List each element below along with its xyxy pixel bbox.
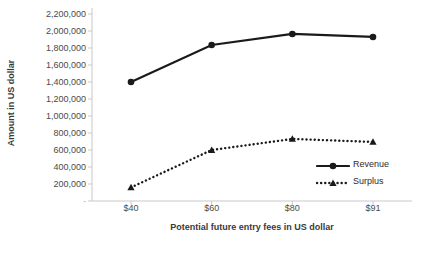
legend-symbol-graphic (316, 177, 350, 189)
data-point-circle-marker (208, 42, 215, 49)
y-axis-tick-labels: 2,200,0002,000,0001,800,0001,600,0001,40… (22, 0, 90, 210)
x-axis-tick-label: $80 (285, 203, 300, 213)
y-axis-title: Amount in US dollar (0, 0, 22, 205)
y-axis-tick-label: 1,400,000 (46, 78, 86, 87)
legend-symbol-triangle-icon (316, 175, 350, 187)
chart-legend: RevenueSurplus (316, 156, 416, 190)
y-axis-tick-label: 600,000 (53, 146, 86, 155)
legend-symbol-graphic (316, 160, 350, 172)
y-axis-tick-label: 1,200,000 (46, 95, 86, 104)
y-axis-tick-label: 1,800,000 (46, 44, 86, 53)
data-point-triangle-marker (289, 135, 296, 141)
x-axis-tick-labels: $40$60$80$91 (92, 203, 412, 221)
data-point-triangle-marker (127, 184, 134, 190)
x-axis-tick-label: $40 (123, 203, 138, 213)
y-axis-tick-label: 2,000,000 (46, 27, 86, 36)
legend-label: Surplus (353, 176, 384, 186)
data-point-circle-marker (330, 162, 337, 169)
data-point-circle-marker (128, 79, 135, 86)
x-axis-tick-label: $91 (365, 203, 380, 213)
legend-item-surplus[interactable]: Surplus (316, 173, 384, 188)
y-axis-tick-label: 1,000,000 (46, 112, 86, 121)
series-line-revenue (131, 34, 373, 82)
y-axis-tick-label: - (83, 197, 86, 205)
data-point-circle-marker (289, 31, 296, 38)
legend-label: Revenue (353, 159, 389, 169)
y-axis-title-label: Amount in US dollar (6, 59, 16, 146)
y-axis-tick-label: 200,000 (53, 180, 86, 189)
legend-item-revenue[interactable]: Revenue (316, 156, 389, 171)
x-axis-title: Potential future entry fees in US dollar (92, 222, 412, 232)
x-axis-tick-label: $60 (204, 203, 219, 213)
line-chart: Amount in US dollar 2,200,0002,000,0001,… (0, 0, 422, 255)
data-point-triangle-marker (208, 146, 215, 152)
legend-symbol-circle-icon (316, 158, 350, 170)
y-axis-tick-label: 1,600,000 (46, 61, 86, 70)
y-axis-tick-label: 2,200,000 (46, 10, 86, 19)
data-point-circle-marker (370, 34, 377, 41)
y-axis-tick-label: 800,000 (53, 129, 86, 138)
y-axis-tick-label: 400,000 (53, 163, 86, 172)
data-point-triangle-marker (369, 138, 376, 144)
